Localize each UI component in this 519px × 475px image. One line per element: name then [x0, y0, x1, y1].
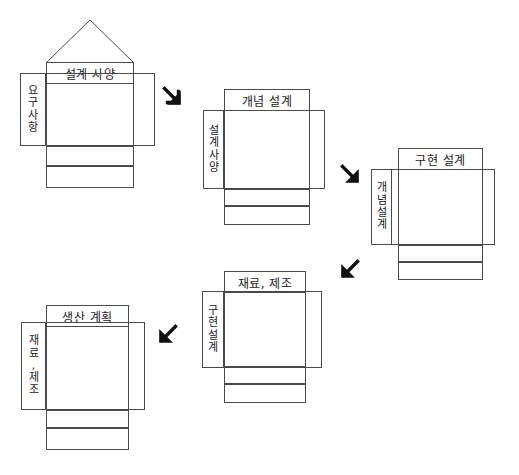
arrow-stage1-to-stage2	[160, 82, 188, 110]
stage-3-title: 구현 설계	[415, 151, 465, 168]
stage-3-row-b	[398, 262, 483, 280]
stage-4-input-char-2: 설	[208, 330, 218, 342]
stage-2-title: 개념 설계	[242, 92, 292, 109]
roof-triangle-icon	[46, 18, 134, 63]
stage-5-input-label-cell: 재 료 , 제 조	[21, 322, 46, 410]
stage-3-input-label-cell: 개 념 설 계	[371, 169, 392, 245]
stage-5-row-a	[46, 410, 129, 428]
stage-2-row-a	[224, 189, 310, 206]
stage-4-input-char-3: 계	[208, 342, 218, 354]
arrow-down-left-icon	[334, 255, 362, 283]
stage-2-input-char-2: 사	[209, 150, 219, 162]
stage-4-row-b	[224, 384, 306, 403]
stage-4-title-cell: 재료, 제조	[224, 271, 306, 293]
stage-5-input-char-0: 재	[29, 335, 39, 347]
arrow-down-right-icon	[338, 160, 366, 188]
arrow-stage2-to-stage3	[338, 160, 366, 188]
stage-3-row-a	[398, 245, 483, 262]
stage-3-input-char-3: 계	[377, 219, 387, 231]
arrow-down-left-icon	[152, 320, 180, 348]
stage-2-input-char-1: 계	[209, 137, 219, 149]
stage-2-title-cell: 개념 설계	[224, 89, 310, 111]
stage-1-input-label-cell: 요 구 사 항	[20, 73, 46, 146]
arrow-down-right-icon	[160, 82, 188, 110]
qfd-cascade-diagram: 설계 사양 요 구 사 항 개념 설계 설 계	[0, 0, 519, 475]
stage-3-input-char-0: 개	[377, 182, 387, 194]
stage-4-input-label-cell: 구 현 설 계	[202, 291, 224, 368]
arrow-stage3-to-stage4	[334, 255, 362, 283]
stage-1-row-b	[46, 166, 134, 188]
stage-1-input-char-2: 사	[28, 110, 38, 122]
stage-2-input-label-cell: 설 계 사 양	[203, 110, 224, 189]
stage-2-row-b	[224, 206, 310, 225]
stage-5-row-b	[46, 428, 129, 450]
arrow-stage4-to-stage5	[152, 320, 180, 348]
stage-3-title-cell: 구현 설계	[398, 148, 483, 170]
stage-1-input-char-1: 구	[28, 97, 38, 109]
stage-4-title: 재료, 제조	[238, 274, 293, 291]
stage-5-input-char-1: 료	[29, 348, 39, 360]
stage-1-row-a	[46, 146, 134, 166]
stage-1-input-char-3: 항	[28, 122, 38, 134]
stage-5-input-char-4: 조	[29, 384, 39, 396]
stage-2-input-char-3: 양	[209, 162, 219, 174]
stage-4-input-char-1: 현	[208, 317, 218, 329]
stage-4-row-a	[224, 367, 306, 384]
